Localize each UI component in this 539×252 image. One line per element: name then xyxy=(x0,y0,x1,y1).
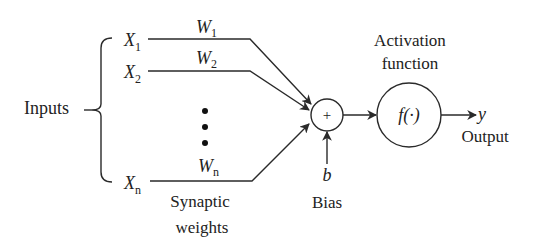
plus-icon: + xyxy=(323,107,331,123)
weight-wn: Wn xyxy=(198,156,219,179)
input-x2: X2 xyxy=(123,62,141,86)
activation-label-line2: function xyxy=(382,54,439,73)
output-symbol: y xyxy=(476,104,486,124)
bias-label: Bias xyxy=(312,193,342,212)
ellipsis-dot-3 xyxy=(202,140,208,146)
ellipsis-dot-2 xyxy=(202,124,208,130)
activation-function-symbol: f(·) xyxy=(398,105,420,126)
synaptic-label-line1: Synaptic xyxy=(170,192,230,211)
weight-w2: W2 xyxy=(196,48,217,71)
input-x1: X1 xyxy=(123,30,141,54)
ellipsis-dot-1 xyxy=(202,108,208,114)
bias-symbol: b xyxy=(323,165,332,185)
synaptic-label-line2: weights xyxy=(176,218,229,237)
input-xn: Xn xyxy=(123,173,141,197)
neuron-diagram: Inputs X1 W1 X2 W2 Xn Wn Synaptic weight… xyxy=(0,0,539,252)
inputs-brace xyxy=(92,38,112,182)
output-label: Output xyxy=(461,127,509,146)
activation-label-line1: Activation xyxy=(374,31,446,50)
weight-w1: W1 xyxy=(196,17,217,40)
weight-line-n xyxy=(150,124,309,181)
inputs-label: Inputs xyxy=(24,98,69,118)
